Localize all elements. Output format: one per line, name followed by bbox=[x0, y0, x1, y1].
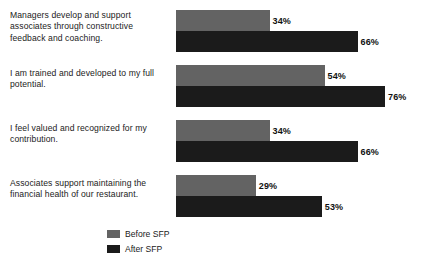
bar-value-before: 34% bbox=[273, 126, 292, 136]
bar-value-after: 53% bbox=[325, 202, 344, 212]
bar-after bbox=[176, 141, 358, 162]
bar-group: Associates support maintaining the finan… bbox=[0, 175, 426, 217]
legend-label: Before SFP bbox=[125, 228, 169, 240]
category-label: I am trained and developed to my full po… bbox=[10, 68, 168, 91]
legend-swatch-icon bbox=[107, 230, 120, 238]
bar-value-after: 66% bbox=[361, 37, 380, 47]
legend-swatch-icon bbox=[107, 245, 120, 253]
legend-item-before: Before SFP bbox=[107, 228, 307, 241]
bar-before bbox=[176, 175, 256, 196]
bar-value-after: 76% bbox=[388, 92, 407, 102]
bar-group: I feel valued and recognized for my cont… bbox=[0, 120, 426, 162]
bar-before bbox=[176, 10, 270, 31]
bar-group: I am trained and developed to my full po… bbox=[0, 65, 426, 107]
bar-value-before: 54% bbox=[328, 71, 347, 81]
bar-value-before: 29% bbox=[259, 181, 278, 191]
bar-value-before: 34% bbox=[273, 16, 292, 26]
legend-item-after: After SFP bbox=[107, 243, 307, 256]
legend-label: After SFP bbox=[125, 243, 162, 255]
bar-after bbox=[176, 31, 358, 52]
bar-after bbox=[176, 86, 385, 107]
category-label: Managers develop and support associates … bbox=[10, 10, 168, 44]
bar-group: Managers develop and support associates … bbox=[0, 10, 426, 52]
chart-legend: Before SFP After SFP bbox=[107, 228, 307, 258]
bar-value-after: 66% bbox=[361, 147, 380, 157]
bar-before bbox=[176, 65, 325, 86]
category-label: I feel valued and recognized for my cont… bbox=[10, 123, 168, 146]
bar-chart: Managers develop and support associates … bbox=[0, 0, 426, 270]
category-label: Associates support maintaining the finan… bbox=[10, 178, 168, 201]
bar-after bbox=[176, 196, 322, 217]
plot-area: Managers develop and support associates … bbox=[0, 0, 426, 222]
bar-before bbox=[176, 120, 270, 141]
